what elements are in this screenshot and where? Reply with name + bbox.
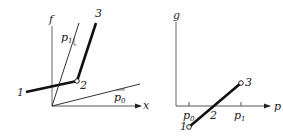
thick-segment-2-3 [77,23,96,81]
slope-triangle-p1 [74,38,77,45]
p-axis-label: p [274,100,281,113]
thick-segment-1-2 [26,81,77,92]
right-panel: g p p0 p1 2 1 3 [173,9,281,133]
point-2-marker [75,79,80,84]
diagram-canvas: f x 3 2 1 p1 p0 g p p0 p1 2 1 3 [0,0,283,140]
slope-label-p1: p1 [61,31,73,45]
tick-label-p1: p1 [234,109,246,123]
point-1-label: 1 [17,86,24,99]
slope-label-p0: p0 [114,91,126,105]
slope-line-p0 [52,84,140,106]
point-3-label-right: 3 [245,76,252,89]
point-1-marker [187,125,192,130]
g-axis-label: g [173,9,180,22]
point-1-label-right: 1 [180,120,187,133]
f-axis-label: f [48,13,55,26]
crossing-label-2: 2 [209,109,217,122]
left-panel: f x 3 2 1 p1 p0 [17,7,150,112]
x-axis-label: x [143,99,150,112]
point-3-label: 3 [95,7,102,20]
point-3-marker [239,81,244,86]
point-2-label: 2 [79,79,87,92]
